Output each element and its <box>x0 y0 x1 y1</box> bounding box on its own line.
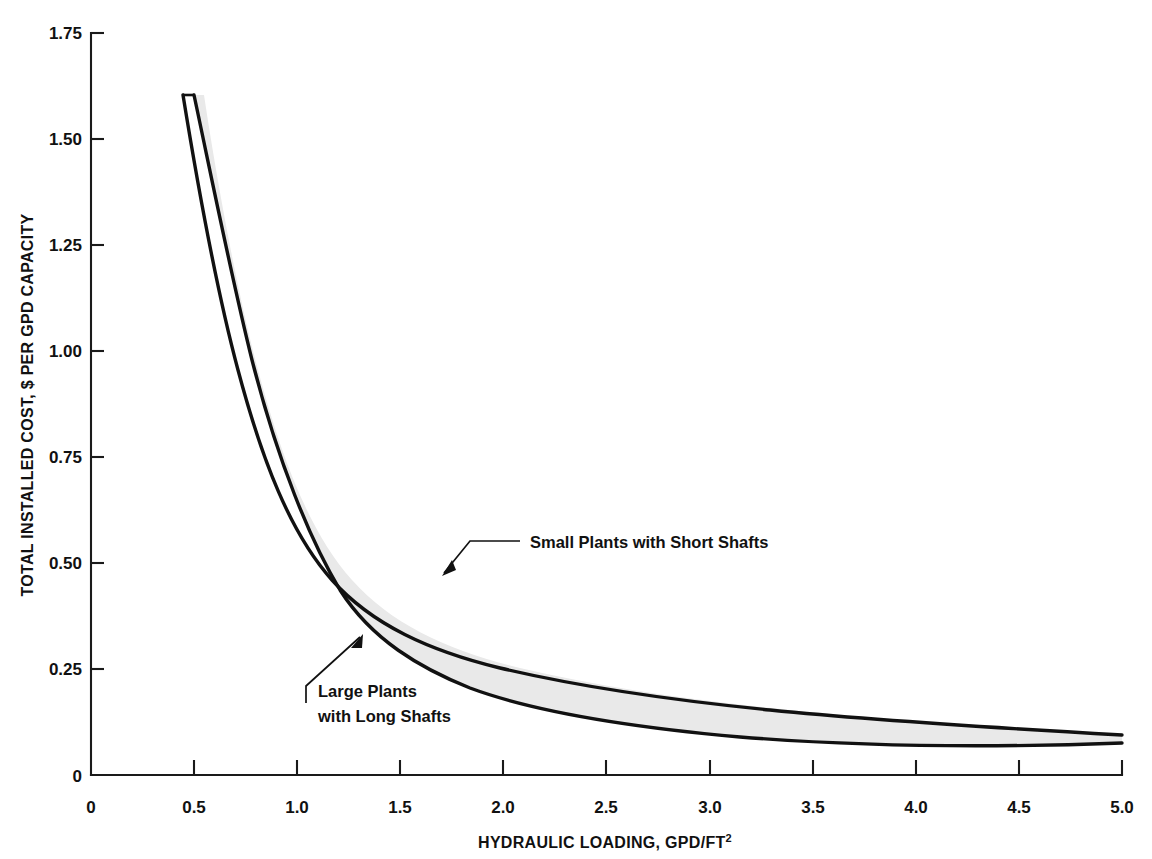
x-tick-label-5.0: 5.0 <box>1110 798 1134 817</box>
x-axis-title: HYDRAULIC LOADING, GPD/FT2 <box>478 832 732 851</box>
lower-annotation-label-line2: with Long Shafts <box>317 707 451 725</box>
y-tick-label-1.75: 1.75 <box>49 24 82 43</box>
x-tick-label-2.5: 2.5 <box>594 798 618 817</box>
x-axis-title-text: HYDRAULIC LOADING, GPD/FT <box>478 834 726 851</box>
upper-annotation-label: Small Plants with Short Shafts <box>530 533 768 551</box>
y-tick-label-0: 0 <box>73 767 82 786</box>
lower-annotation-label-line1: Large Plants <box>318 682 417 700</box>
y-tick-label-0.25: 0.25 <box>49 660 82 679</box>
y-tick-label-0.50: 0.50 <box>49 554 82 573</box>
x-tick-label-4.5: 4.5 <box>1007 798 1031 817</box>
x-tick-label-1.0: 1.0 <box>285 798 309 817</box>
x-tick-label-4.0: 4.0 <box>904 798 928 817</box>
y-axis-title: TOTAL INSTALLED COST, $ PER GPD CAPACITY <box>19 213 36 596</box>
x-axis-title-superscript: 2 <box>726 832 732 844</box>
y-tick-label-0.75: 0.75 <box>49 448 82 467</box>
x-tick-label-3.5: 3.5 <box>801 798 825 817</box>
chart-canvas: 1.75 1.50 1.25 1.00 0.75 0.50 0.25 0 0 0… <box>0 0 1152 859</box>
y-tick-label-1.50: 1.50 <box>49 130 82 149</box>
chart-figure: 1.75 1.50 1.25 1.00 0.75 0.50 0.25 0 0 0… <box>0 0 1152 859</box>
y-tick-label-1.00: 1.00 <box>49 342 82 361</box>
x-tick-label-2.0: 2.0 <box>491 798 515 817</box>
x-tick-label-0: 0 <box>86 798 95 817</box>
y-tick-label-1.25: 1.25 <box>49 236 82 255</box>
x-tick-label-3.0: 3.0 <box>698 798 722 817</box>
x-tick-label-1.5: 1.5 <box>388 798 412 817</box>
x-tick-label-0.5: 0.5 <box>182 798 206 817</box>
